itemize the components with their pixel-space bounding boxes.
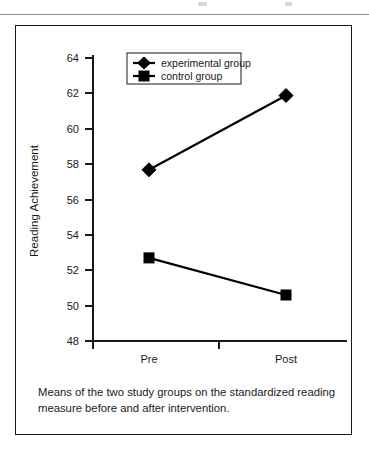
series-line-experimental: [149, 96, 286, 170]
cut-off-text-artifacts: [0, 0, 369, 12]
y-tick-label-50: 50: [67, 300, 79, 312]
x-tick-label-pre: Pre: [140, 353, 157, 365]
plot-area: 64 62 60 58 56 54 52 50 48 Reading Achie…: [16, 26, 353, 366]
y-tick-label-54: 54: [67, 229, 79, 241]
x-axis-ticks: [93, 341, 219, 349]
series-line-control: [149, 258, 286, 295]
y-axis-title: Reading Achievement: [28, 144, 40, 257]
y-tick-label-64: 64: [67, 52, 79, 64]
legend-label-experimental: experimental group: [161, 57, 251, 69]
y-tick-label-58: 58: [67, 158, 79, 170]
data-point-control-post: [281, 290, 291, 300]
chart-legend[interactable]: experimental group control group: [127, 53, 251, 84]
y-axis-ticks: [85, 58, 93, 341]
y-tick-label-62: 62: [67, 87, 79, 99]
data-point-experimental-post: [279, 89, 293, 103]
data-point-experimental-pre: [142, 163, 156, 177]
legend-marker-square-icon: [139, 71, 149, 81]
figure-caption: Means of the two study groups on the sta…: [38, 384, 338, 416]
x-tick-label-post: Post: [275, 353, 297, 365]
figure-frame: 64 62 60 58 56 54 52 50 48 Reading Achie…: [15, 25, 352, 435]
data-point-control-pre: [144, 253, 154, 263]
y-tick-label-56: 56: [67, 194, 79, 206]
y-tick-label-52: 52: [67, 264, 79, 276]
line-chart: 64 62 60 58 56 54 52 50 48 Reading Achie…: [16, 26, 353, 366]
y-tick-label-60: 60: [67, 123, 79, 135]
top-divider-rule: [0, 14, 369, 15]
legend-label-control: control group: [161, 70, 222, 82]
y-tick-label-48: 48: [67, 335, 79, 347]
